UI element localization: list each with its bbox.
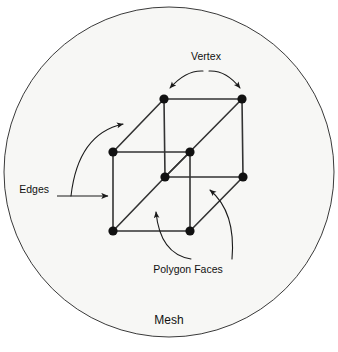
- vertex-dot-bottom-front-left: [108, 226, 117, 235]
- polygon-faces-label: Polygon Faces: [153, 263, 222, 275]
- vertex-dot-mid-back-left: [108, 147, 117, 156]
- figure-root: Vertex Edges Polygon Faces Mesh: [0, 0, 338, 352]
- vertex-label: Vertex: [191, 50, 222, 62]
- vertex-dot-mid-back-right: [185, 147, 194, 156]
- vertex-dot-front-right: [238, 172, 247, 181]
- cube-edge-right-vertical: [242, 99, 243, 177]
- vertex-dot-bottom-front-right: [185, 226, 194, 235]
- mesh-diagram: Vertex Edges Polygon Faces Mesh: [0, 0, 338, 352]
- vertex-dot-top-back-right: [237, 94, 246, 103]
- mesh-caption: Mesh: [154, 313, 183, 327]
- cube-edge-center-vertical: [164, 99, 165, 177]
- edges-label: Edges: [19, 183, 49, 195]
- vertex-dot-front-center: [160, 172, 169, 181]
- vertex-dot-top-back-left: [159, 94, 168, 103]
